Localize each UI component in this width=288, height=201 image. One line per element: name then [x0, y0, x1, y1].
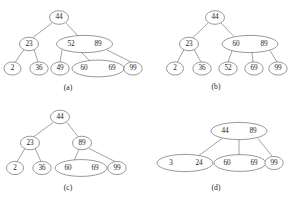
node-a-23: 23	[20, 37, 39, 51]
panel-caption-b: (b)	[212, 82, 221, 91]
node-a-49: 49	[51, 62, 69, 75]
node-c-36: 36	[33, 161, 51, 174]
node-b-60-89-ellipse	[222, 35, 278, 52]
edge-a-52-49	[60, 50, 62, 62]
node-c-60-69-ellipse	[55, 160, 107, 177]
panels.0.nodes.2.key-0: 52	[67, 40, 75, 48]
edge-d-44-3	[199, 139, 222, 156]
node-b-99: 99	[269, 62, 287, 75]
panels.3.nodes.0.key-0: 44	[221, 127, 229, 135]
panels.1.nodes.6.key-0: 69	[250, 64, 258, 72]
panels.2.nodes.4.key-0: 36	[38, 164, 46, 172]
panels.1.nodes.1.key-0: 23	[185, 40, 193, 48]
edge-c-23-2	[17, 149, 25, 162]
panels.0.nodes.2.key-1: 89	[94, 40, 102, 48]
node-c-99: 99	[108, 161, 126, 174]
panels.1.nodes.3.key-0: 2	[173, 64, 177, 72]
panels.0.nodes.6.key-1: 69	[108, 64, 116, 72]
panels.1.nodes.5.key-0: 52	[224, 64, 232, 72]
edge-c-89-60	[74, 150, 79, 162]
node-d-60-69: 6069	[214, 155, 266, 172]
edge-c-44-23	[34, 123, 53, 137]
node-d-root-44-89: 4489	[211, 122, 267, 139]
panels.2.nodes.3.key-0: 2	[13, 164, 17, 172]
edge-b-60-52	[228, 51, 232, 62]
node-b-52: 52	[219, 62, 237, 75]
edge-a-89-99	[107, 50, 131, 62]
edge-a-44-52	[66, 23, 78, 36]
panels.1.nodes.7.key-0: 99	[274, 64, 282, 72]
node-a-52-89: 5289	[57, 35, 113, 52]
panel-caption-c: (c)	[64, 183, 73, 192]
panels.2.nodes.5.key-1: 69	[91, 164, 99, 172]
node-b-60-89: 6089	[222, 35, 278, 52]
panels.2.nodes.6.key-0: 99	[113, 164, 121, 172]
panels.0.nodes.0.key-0: 44	[55, 13, 63, 21]
node-d-60-69-ellipse	[214, 155, 266, 172]
edge-b-60-69	[252, 53, 253, 63]
node-d-99: 99	[265, 156, 283, 169]
node-c-root-44: 44	[51, 110, 70, 124]
node-c-60-69: 6069	[55, 160, 107, 177]
node-a-36: 36	[30, 62, 48, 75]
panels.1.nodes.0.key-0: 44	[211, 13, 219, 21]
panels.1.nodes.4.key-0: 36	[198, 64, 206, 72]
panels.2.nodes.5.key-0: 60	[64, 164, 72, 172]
panels.3.nodes.1.key-0: 3	[169, 159, 173, 167]
panel-caption-a: (a)	[64, 83, 73, 92]
panels.1.nodes.2.key-1: 89	[260, 40, 268, 48]
edge-b-44-23	[193, 23, 208, 38]
panels.0.nodes.1.key-0: 23	[25, 40, 33, 48]
edge-b-89-99	[270, 51, 277, 63]
node-d-3-24: 324	[157, 154, 213, 171]
edge-a-23-2	[15, 50, 24, 63]
node-b-2: 2	[167, 62, 184, 75]
panels.0.nodes.7.key-0: 99	[129, 64, 137, 72]
node-a-root-44: 44	[50, 11, 69, 25]
edge-b-23-36	[194, 50, 201, 63]
panels.2.nodes.1.key-0: 23	[26, 139, 34, 147]
node-b-root-44: 44	[206, 11, 225, 25]
tree-diagram-svg: 4423528923649606999442360892365269994423…	[0, 0, 288, 201]
node-a-60-69: 6069	[72, 60, 124, 77]
node-c-2: 2	[7, 161, 24, 174]
panels.3.nodes.0.key-1: 89	[249, 127, 257, 135]
nodes-layer: 4423528923649606999442360892365269994423…	[4, 11, 287, 177]
panels.2.nodes.0.key-0: 44	[56, 113, 64, 121]
node-a-52-89-ellipse	[57, 35, 113, 52]
panels.3.nodes.2.key-0: 60	[223, 159, 231, 167]
node-c-89: 89	[73, 136, 92, 150]
panels.2.nodes.2.key-0: 89	[78, 139, 86, 147]
panels.3.nodes.2.key-1: 69	[250, 159, 258, 167]
node-a-99: 99	[124, 62, 142, 75]
node-b-23: 23	[180, 37, 199, 51]
panel-caption-d: (d)	[212, 183, 221, 192]
edge-c-23-36	[35, 149, 41, 162]
edge-b-44-60	[221, 23, 234, 37]
node-a-2: 2	[4, 62, 21, 75]
panels.1.nodes.2.key-0: 60	[232, 40, 240, 48]
node-d-root-44-89-ellipse	[211, 122, 267, 139]
edge-a-23-36	[34, 50, 38, 63]
node-c-23: 23	[21, 136, 40, 150]
edge-b-23-2	[177, 50, 184, 63]
node-b-69: 69	[245, 62, 263, 75]
panels.0.nodes.6.key-0: 60	[80, 64, 88, 72]
figure-root: 4423528923649606999442360892365269994423…	[0, 0, 288, 201]
panels.0.nodes.4.key-0: 36	[35, 64, 43, 72]
edge-c-44-89	[67, 123, 78, 137]
panels.3.nodes.3.key-0: 99	[270, 159, 278, 167]
panels.0.nodes.3.key-0: 2	[11, 64, 15, 72]
panels.3.nodes.1.key-1: 24	[195, 159, 203, 167]
panels.0.nodes.5.key-0: 49	[56, 64, 64, 72]
edge-c-89-99	[89, 149, 115, 162]
edge-a-44-23	[33, 23, 52, 38]
edge-d-89-99	[258, 139, 272, 157]
node-b-36: 36	[193, 62, 211, 75]
node-d-3-24-ellipse	[157, 154, 213, 171]
